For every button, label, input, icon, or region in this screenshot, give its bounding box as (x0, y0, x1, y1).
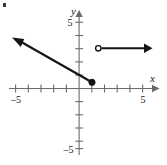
coordinate-plane-svg: y x –5 5 5 –5 (0, 0, 167, 165)
y-axis-arrowhead-icon (75, 10, 82, 17)
x-max-tick-label: 5 (141, 94, 146, 105)
graph-figure: y x –5 5 5 –5 (0, 0, 167, 165)
y-axis (75, 10, 83, 155)
right-ray-series (96, 44, 153, 53)
left-ray-arrowhead-icon (12, 38, 24, 47)
open-endpoint-circle (96, 46, 101, 51)
x-axis-arrowhead-icon (152, 85, 160, 92)
x-min-tick-label: –5 (10, 94, 21, 105)
y-min-tick-label: –5 (63, 144, 74, 155)
closed-endpoint-dot (89, 79, 95, 85)
y-axis-label: y (70, 5, 76, 17)
x-axis (9, 85, 160, 93)
y-max-tick-label: 5 (68, 17, 73, 28)
corner-mark-icon (3, 3, 6, 7)
x-axis-label: x (149, 72, 155, 84)
right-ray-arrowhead-icon (144, 44, 153, 53)
